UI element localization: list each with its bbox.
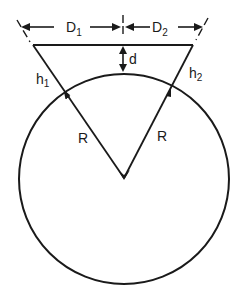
d-arrowhead-up [119, 46, 127, 54]
label-d1: D1 [66, 19, 82, 38]
label-h1: h1 [36, 71, 50, 89]
earth-curvature-diagram: D1 D2 d h1 h2 R R [0, 0, 243, 302]
d1-arrowhead-left [21, 23, 30, 31]
d2-arrowhead-left [125, 23, 134, 31]
radius-right-arrowhead-top [166, 88, 171, 97]
label-h2: h2 [189, 65, 203, 83]
d1-arrowhead-right [112, 23, 121, 31]
left-extension-dash [17, 20, 30, 42]
label-d2: D2 [152, 19, 168, 38]
label-r-right: R [157, 128, 167, 144]
d-arrowhead-down [119, 64, 127, 72]
label-r-left: R [78, 130, 88, 146]
label-d: d [129, 51, 137, 67]
line-h1-left [33, 45, 124, 178]
